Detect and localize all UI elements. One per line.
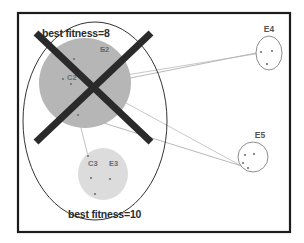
upper-gray-cluster-point-3 bbox=[70, 83, 72, 85]
top-fitness-label: best fitness=8 bbox=[42, 27, 110, 39]
lower-gray-cluster-point-2 bbox=[109, 178, 111, 180]
lower-gray-cluster-point-3 bbox=[94, 193, 96, 195]
diagram-svg: C2E2C3E3E4E5 best fitness=8 best fitness… bbox=[0, 0, 304, 243]
figure-canvas: C2E2C3E3E4E5 best fitness=8 best fitness… bbox=[0, 0, 304, 243]
lower-gray-cluster-point-0 bbox=[87, 155, 89, 157]
cluster-e5-point-2 bbox=[242, 162, 244, 164]
bottom-fitness-label: best fitness=10 bbox=[68, 208, 142, 220]
lower-gray-cluster-blob bbox=[78, 148, 128, 200]
lower-gray-cluster-point-1 bbox=[90, 177, 92, 179]
upper-gray-cluster-point-0 bbox=[73, 58, 75, 60]
cluster-e4-point-0 bbox=[260, 51, 262, 53]
cluster-lower-gray-cluster: C3E3 bbox=[78, 148, 128, 200]
upper-gray-cluster-point-4 bbox=[77, 114, 79, 116]
upper-gray-cluster-inner-label: E2 bbox=[100, 45, 109, 54]
cluster-e4-point-2 bbox=[266, 63, 268, 65]
lower-gray-cluster-inner-label: E3 bbox=[109, 159, 118, 168]
upper-gray-cluster-point-5 bbox=[62, 78, 64, 80]
cluster-e5-point-0 bbox=[244, 154, 246, 156]
cluster-e5-point-1 bbox=[253, 153, 255, 155]
cluster-e5-blob bbox=[238, 142, 268, 172]
cluster-e4-point-1 bbox=[271, 50, 273, 52]
lower-gray-cluster-inner-label: C3 bbox=[88, 159, 98, 168]
cluster-e4-blob bbox=[256, 36, 282, 70]
cluster-e5-point-3 bbox=[247, 167, 249, 169]
cluster-e4-label: E4 bbox=[264, 24, 275, 34]
cluster-e5-label: E5 bbox=[255, 130, 266, 140]
